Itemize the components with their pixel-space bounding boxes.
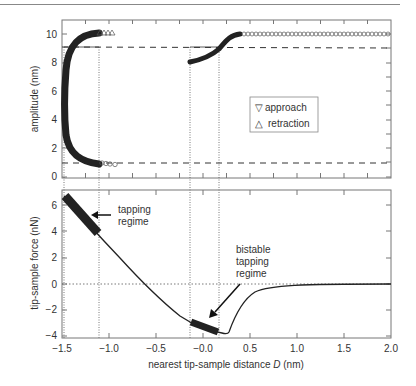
retraction-marker-icon: △ (255, 118, 263, 129)
x-tick: −0.0 (193, 343, 213, 354)
arrow-left-icon (91, 211, 98, 219)
legend-approach: approach (265, 102, 307, 113)
bottom-plot-frame (62, 190, 391, 338)
force-curve (64, 196, 391, 334)
bottom-y-axis-label: tip-sample force (nN) (29, 216, 40, 309)
legend: ▽ approach △ retraction (250, 97, 318, 132)
annotation-text: tapping (236, 256, 269, 267)
x-tick: −1.0 (99, 343, 119, 354)
y-tick: 10 (46, 29, 58, 40)
y-tick: −2 (46, 304, 58, 315)
x-tick: −1.5 (52, 343, 72, 354)
amplitude-left-branch (65, 33, 100, 164)
bistable-annotation: bistable tapping regime (209, 244, 271, 318)
tapping-annotation: tapping regime (91, 204, 151, 227)
x-tick: 1.0 (290, 343, 304, 354)
x-axis-label: nearest tip-sample distance D (nm) (148, 359, 304, 370)
bistable-regime-segment (191, 322, 218, 332)
x-tick: 2.0 (384, 343, 398, 354)
vertical-guides (64, 47, 219, 338)
y-tick: 6 (51, 86, 57, 97)
y-tick: 0 (51, 279, 57, 290)
annotation-text: tapping (118, 204, 151, 215)
bottom-panel: −4 −2 0 2 4 6 −1.5 −1.0 −0.5 −0.0 0.5 1.… (29, 190, 398, 370)
bottom-y-tick-labels: −4 −2 0 2 4 6 (46, 200, 58, 341)
figure: 0 2 4 6 8 10 amplitude (nm) (0, 0, 416, 386)
approach-marker-icon: ▽ (255, 102, 263, 113)
legend-retraction: retraction (268, 118, 310, 129)
top-y-axis-label: amplitude (nm) (29, 66, 40, 133)
top-panel: 0 2 4 6 8 10 amplitude (nm) (29, 20, 391, 338)
y-tick: 2 (51, 252, 57, 263)
top-y-tick-labels: 0 2 4 6 8 10 (46, 29, 58, 182)
x-tick-labels: −1.5 −1.0 −0.5 −0.0 0.5 1.0 1.5 2.0 (52, 343, 398, 354)
y-tick: 2 (51, 143, 57, 154)
right-branch-markers (242, 32, 390, 36)
x-tick: −0.5 (146, 343, 166, 354)
x-tick: 0.5 (243, 343, 257, 354)
left-branch-markers (97, 30, 117, 167)
y-tick: −4 (46, 330, 58, 341)
annotation-text: regime (118, 216, 149, 227)
annotation-text: regime (236, 268, 267, 279)
y-tick: 4 (51, 226, 57, 237)
annotation-text: bistable (236, 244, 271, 255)
upper-reference-line (62, 47, 391, 48)
y-tick: 0 (51, 171, 57, 182)
y-tick: 4 (51, 114, 57, 125)
y-tick: 6 (51, 200, 57, 211)
x-tick: 1.5 (337, 343, 351, 354)
y-tick: 8 (51, 57, 57, 68)
